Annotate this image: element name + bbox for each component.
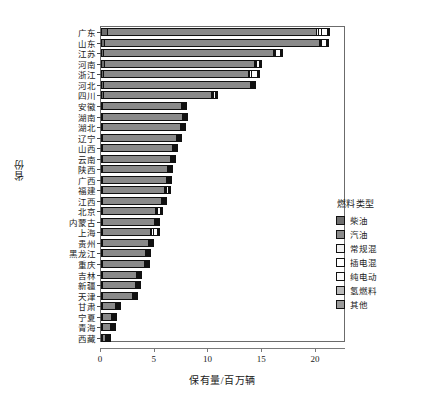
bar-segment: [119, 302, 121, 310]
bar-row: [101, 144, 178, 152]
bar-segment: [103, 91, 212, 99]
y-axis-tick-label: 上海: [78, 228, 96, 238]
y-axis-tick: [97, 232, 101, 233]
y-axis-tick-label: 宁夏: [78, 313, 96, 323]
y-axis-tick: [97, 74, 101, 75]
legend-item[interactable]: 柴油: [336, 213, 416, 227]
y-axis-tick: [97, 201, 101, 202]
bar-row: [101, 91, 218, 99]
bar-segment: [171, 165, 173, 173]
bar-row: [101, 292, 138, 300]
y-axis-tick-label: 辽宁: [78, 134, 96, 144]
y-axis-tick-label: 西藏: [78, 334, 96, 344]
y-axis-title-label: 省份: [12, 159, 27, 181]
bar-row: [101, 302, 121, 310]
y-axis-tick: [97, 106, 101, 107]
y-axis-tick-label: 山西: [78, 144, 96, 154]
y-axis-tick: [97, 190, 101, 191]
bar-segment: [148, 260, 150, 268]
x-axis-tick-label: 5: [151, 354, 156, 364]
bar-segment: [103, 81, 250, 89]
legend-item-label: 纯电动: [350, 270, 377, 282]
y-axis-tick: [97, 327, 101, 328]
bar-segment: [140, 271, 142, 279]
legend-item[interactable]: 汽油: [336, 227, 416, 241]
legend-item[interactable]: 氢燃料: [336, 283, 416, 297]
bar-segment: [102, 271, 137, 279]
y-axis-tick-label: 重庆: [78, 260, 96, 270]
bar-segment: [103, 49, 274, 57]
bar-segment: [170, 176, 172, 184]
y-axis-tick-label: 安徽: [78, 102, 96, 112]
legend-item-label: 其他: [350, 298, 368, 310]
y-axis-tick-label: 青海: [78, 323, 96, 333]
bar-segment: [102, 165, 168, 173]
legend-swatch: [336, 258, 345, 267]
bar-row: [101, 60, 262, 68]
bar-segment: [102, 176, 166, 184]
legend-item[interactable]: 纯电动: [336, 269, 416, 283]
y-axis-tick: [97, 180, 101, 181]
bar-row: [101, 218, 160, 226]
y-axis-tick-label: 黑龙江: [69, 249, 96, 259]
bar-segment: [161, 207, 163, 215]
bar-segment: [184, 123, 186, 131]
bar-segment: [104, 39, 320, 47]
y-axis-tick: [97, 95, 101, 96]
bar-series-container: [101, 27, 344, 341]
bar-row: [101, 113, 188, 121]
bar-segment: [102, 239, 149, 247]
y-axis-tick: [97, 117, 101, 118]
legend-swatch: [336, 216, 345, 225]
bar-segment: [180, 134, 182, 142]
y-axis-tick: [97, 127, 101, 128]
y-axis-tick-label: 江苏: [78, 49, 96, 59]
bar-row: [101, 123, 186, 131]
x-axis-line: [100, 348, 345, 349]
bar-segment: [102, 186, 165, 194]
x-axis-tick-label: 20: [310, 354, 319, 364]
bar-segment: [102, 228, 151, 236]
bar-segment: [176, 144, 178, 152]
x-axis-title: 保有量/百万辆: [100, 372, 345, 387]
bar-segment: [281, 49, 283, 57]
bar-segment: [327, 39, 329, 47]
y-axis-tick: [97, 296, 101, 297]
bar-segment: [102, 144, 173, 152]
bar-row: [101, 186, 171, 194]
legend-title: 燃料类型: [337, 197, 416, 210]
bar-row: [101, 207, 163, 215]
legend-item[interactable]: 其他: [336, 297, 416, 311]
bar-segment: [149, 249, 151, 257]
bar-segment: [109, 334, 111, 342]
bar-segment: [185, 102, 187, 110]
bar-segment: [102, 260, 145, 268]
bar-row: [101, 102, 187, 110]
legend-item[interactable]: 常规混: [336, 241, 416, 255]
x-axis-tick: [261, 348, 262, 352]
bar-row: [101, 239, 154, 247]
bar-row: [101, 176, 172, 184]
bar-segment: [102, 197, 162, 205]
y-axis-tick-label: 湖北: [78, 123, 96, 133]
y-axis-tick: [97, 264, 101, 265]
x-axis-tick-label: 15: [257, 354, 266, 364]
y-axis-tick-label: 内蒙古: [69, 218, 96, 228]
y-axis-tick-label: 广西: [78, 176, 96, 186]
y-axis-tick: [97, 138, 101, 139]
y-axis-tick: [97, 317, 101, 318]
y-axis-tick-label: 天津: [78, 292, 96, 302]
y-axis-tick-label: 山东: [78, 39, 96, 49]
bar-row: [101, 281, 141, 289]
legend-item[interactable]: 插电混: [336, 255, 416, 269]
bar-row: [101, 155, 176, 163]
bar-row: [101, 49, 283, 57]
x-axis-tick: [100, 348, 101, 352]
legend-swatch: [336, 230, 345, 239]
legend-swatch: [336, 272, 345, 281]
bar-segment: [152, 239, 154, 247]
bar-segment: [158, 218, 160, 226]
bar-segment: [258, 70, 260, 78]
y-axis-tick: [97, 43, 101, 44]
y-axis-tick: [97, 243, 101, 244]
